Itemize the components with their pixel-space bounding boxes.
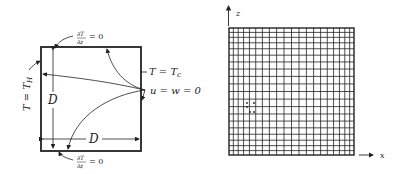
- stencil-markers: [246, 102, 255, 113]
- arrow-to-left-wall: [43, 74, 145, 90]
- bottom-bc-numerator: ∂T: [77, 154, 85, 161]
- x-axis-label: x: [380, 151, 385, 160]
- left-bc-leader: [29, 61, 40, 70]
- bottom-bc-leader: [59, 152, 73, 160]
- cavity-diagram: D D ∂T ∂z = 0 ∂T ∂z = 0 T = TH T = Tc u …: [21, 30, 201, 169]
- top-bc-denominator: ∂z: [77, 38, 84, 45]
- arrow-to-right-wall: [142, 90, 145, 100]
- top-bc-equals: = 0: [89, 32, 103, 41]
- mesh-grid: [229, 28, 354, 155]
- bottom-bc-equals: = 0: [89, 157, 103, 166]
- right-bc-label: T = Tc: [149, 66, 181, 79]
- height-dimension-label: D: [47, 93, 58, 107]
- width-dimension-label: D: [88, 132, 99, 146]
- no-slip-label: u = w = 0: [150, 85, 201, 96]
- bottom-bc-denominator: ∂z: [77, 162, 84, 169]
- figure: D D ∂T ∂z = 0 ∂T ∂z = 0 T = TH T = Tc u …: [0, 0, 406, 174]
- left-bc-label: T = TH: [21, 76, 34, 111]
- mesh-diagram: z x: [229, 6, 386, 160]
- arrow-to-bottom-wall: [68, 90, 145, 149]
- z-axis-label: z: [235, 9, 241, 18]
- top-bc-numerator: ∂T: [77, 30, 85, 37]
